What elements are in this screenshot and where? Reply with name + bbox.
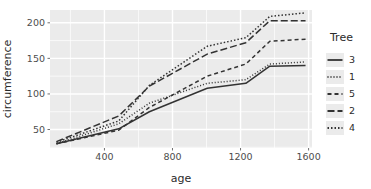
line-chart: 40080012001600 50100150200 age circumfer… xyxy=(0,0,371,189)
legend-item-label: 3 xyxy=(349,54,355,65)
legend-item-label: 5 xyxy=(349,88,355,99)
x-tick-label: 1600 xyxy=(297,151,321,162)
legend-item-2[interactable]: 2 xyxy=(326,104,355,118)
legend-key-background xyxy=(326,70,344,84)
x-tick-label: 800 xyxy=(163,151,181,162)
legend-item-4[interactable]: 4 xyxy=(326,121,355,135)
legend-item-label: 4 xyxy=(349,122,355,133)
legend-item-label: 1 xyxy=(349,71,355,82)
legend-item-5[interactable]: 5 xyxy=(326,87,355,101)
legend-item-label: 2 xyxy=(349,105,355,116)
legend-title: Tree xyxy=(329,31,353,44)
y-tick-label: 200 xyxy=(27,17,45,28)
y-axis-title: circumference xyxy=(1,39,14,118)
legend-item-1[interactable]: 1 xyxy=(326,70,355,84)
x-axis-title: age xyxy=(171,172,192,185)
y-tick-label: 100 xyxy=(27,88,45,99)
y-tick-label: 150 xyxy=(27,53,45,64)
legend-items[interactable]: 31524 xyxy=(326,53,355,135)
y-tick-label: 50 xyxy=(33,124,45,135)
x-tick-label: 1200 xyxy=(228,151,252,162)
legend-item-3[interactable]: 3 xyxy=(326,53,355,67)
chart-container: 40080012001600 50100150200 age circumfer… xyxy=(0,0,371,189)
x-tick-label: 400 xyxy=(95,151,113,162)
